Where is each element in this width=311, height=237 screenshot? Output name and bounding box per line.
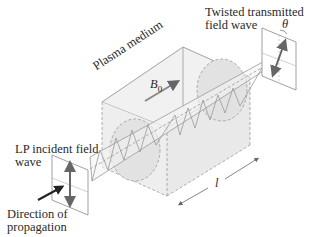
direction-label-line2: propagation xyxy=(7,221,67,234)
lp-label-line2: wave xyxy=(15,156,41,169)
twisted-label-line2: field wave xyxy=(205,19,257,32)
theta-label: θ xyxy=(282,18,288,31)
transmitted-field-plane xyxy=(262,28,296,90)
b0-label: B0 xyxy=(150,78,162,96)
incident-field-plane xyxy=(52,155,88,215)
length-label: l xyxy=(215,177,218,190)
